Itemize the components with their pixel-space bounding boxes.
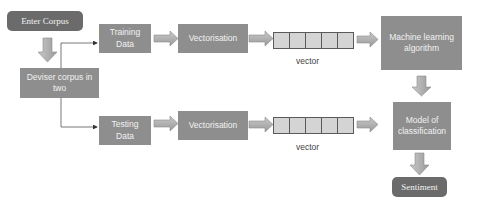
vector-cell — [338, 33, 353, 48]
right-arrow-icon — [154, 116, 178, 131]
vector-cell — [322, 118, 338, 133]
enter-corpus-label: Enter Corpus — [21, 15, 69, 27]
sentiment-label: Sentiment — [401, 181, 438, 193]
vector-cell — [290, 33, 306, 48]
vector-cell — [290, 118, 306, 133]
vectorisation-test-node: Vectorisation — [178, 111, 248, 140]
vector-cell — [274, 118, 290, 133]
down-arrow-icon — [412, 76, 431, 96]
model-classification-node: Model of classification — [393, 102, 451, 150]
training-data-node: Training Data — [99, 24, 151, 53]
vector-cell — [274, 33, 290, 48]
right-arrow-icon — [357, 117, 378, 132]
right-arrow-icon — [249, 117, 273, 132]
vector-test-label: vector — [296, 142, 319, 152]
right-arrow-icon — [249, 31, 273, 46]
vector-cell — [306, 118, 322, 133]
sentiment-node: Sentiment — [392, 177, 447, 197]
down-arrow-icon — [410, 153, 429, 175]
right-arrow-icon — [154, 31, 178, 46]
ml-algorithm-label: Machine learning algorithm — [381, 32, 462, 55]
divide-corpus-label: Deviser corpus in two — [20, 72, 99, 95]
divide-corpus-node: Deviser corpus in two — [20, 68, 99, 98]
right-arrow-icon — [357, 32, 378, 47]
testing-data-node: Testing Data — [99, 116, 151, 145]
vectorisation-test-label: Vectorisation — [189, 120, 238, 131]
model-classification-label: Model of classification — [393, 115, 451, 138]
down-arrow-icon — [38, 38, 57, 62]
vector-cell — [306, 33, 322, 48]
vectorisation-train-label: Vectorisation — [189, 33, 238, 44]
testing-data-label: Testing Data — [99, 119, 151, 142]
training-data-label: Training Data — [99, 27, 151, 50]
vector-train — [273, 32, 354, 49]
vector-cell — [338, 118, 353, 133]
vector-train-label: vector — [296, 56, 319, 66]
ml-algorithm-node: Machine learning algorithm — [381, 16, 462, 70]
vector-test — [273, 117, 354, 134]
vectorisation-train-node: Vectorisation — [178, 24, 248, 53]
enter-corpus-node: Enter Corpus — [7, 11, 83, 31]
vector-cell — [322, 33, 338, 48]
